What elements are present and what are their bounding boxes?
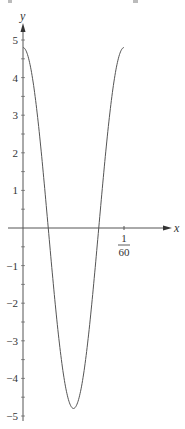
y-tick-label: 3	[13, 109, 19, 121]
y-tick-label: 1	[13, 184, 19, 196]
y-axis-label: y	[19, 9, 26, 23]
y-tick-label: −5	[6, 410, 18, 422]
x-axis-ticks: 160	[118, 226, 130, 258]
cosine-plot: 54321−1−2−3−4−5 160 x y	[0, 0, 185, 429]
y-tick-label: 5	[13, 34, 19, 46]
y-tick-label: 2	[13, 147, 19, 159]
y-axis-arrow-icon	[21, 23, 26, 32]
x-axis-label: x	[173, 221, 180, 235]
x-tick-numerator: 1	[121, 232, 127, 244]
y-tick-label: 4	[13, 72, 19, 84]
x-axis-arrow-icon	[163, 226, 172, 231]
y-tick-label: −4	[6, 372, 18, 384]
x-tick-denominator: 60	[119, 246, 131, 258]
y-tick-label: −1	[6, 260, 18, 272]
y-tick-label: −2	[6, 297, 18, 309]
y-tick-label: −3	[6, 335, 18, 347]
